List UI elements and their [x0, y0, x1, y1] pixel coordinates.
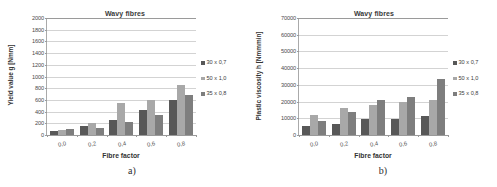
y-tick-label: 400	[35, 109, 44, 115]
bar	[58, 130, 66, 135]
x-axis-title-b: Fibre factor	[298, 152, 448, 159]
bar	[391, 119, 399, 135]
bar	[50, 131, 58, 135]
legend-swatch-icon	[453, 92, 457, 96]
bar	[429, 100, 437, 135]
bar	[377, 100, 385, 135]
legend-swatch-icon	[453, 61, 457, 65]
y-tick-label: 60000	[281, 32, 296, 38]
bar-group	[77, 18, 107, 135]
y-axis-title-b: Plastic viscosity h [Nmmmin]	[255, 16, 262, 136]
x-tick-mark	[136, 135, 137, 137]
x-tick-mark	[47, 135, 48, 137]
x-tick-label: 0,2	[339, 140, 348, 148]
legend-item: 30 x 0,7	[453, 60, 478, 66]
bar	[66, 129, 74, 135]
bar	[169, 100, 177, 135]
bar-group	[166, 18, 196, 135]
x-tick-label: 0,2	[87, 140, 96, 148]
bar-group	[388, 18, 418, 135]
legend-swatch-icon	[453, 77, 457, 81]
bar	[139, 110, 147, 135]
bar	[421, 116, 429, 135]
x-tick-mark	[107, 135, 108, 137]
gridline	[47, 135, 196, 136]
gridline	[299, 135, 448, 136]
bar	[147, 100, 155, 135]
legend-item: 50 x 1,0	[453, 76, 478, 82]
y-tick-label: 50000	[281, 48, 296, 54]
bar-group	[418, 18, 448, 135]
bar	[437, 79, 445, 135]
legend-swatch-icon	[201, 77, 205, 81]
bar	[310, 115, 318, 135]
bar-group	[299, 18, 329, 135]
bar	[117, 103, 125, 135]
legend-item: 35 x 0,8	[201, 91, 226, 97]
bar	[302, 126, 310, 135]
y-tick-label: 10000	[281, 115, 296, 121]
plot-area-a: 0200400600800100012001400160018002000 0,…	[46, 18, 196, 135]
chart-panel-a: Wavy fibres Yield value g [Nmm] 02004006…	[0, 0, 248, 187]
x-tick-label: 0,6	[399, 140, 408, 148]
legend-label: 50 x 1,0	[459, 76, 479, 82]
legend-swatch-icon	[201, 61, 205, 65]
y-tick-label: 200	[35, 120, 44, 126]
bar-group	[136, 18, 166, 135]
legend-item: 35 x 0,8	[453, 91, 478, 97]
figure-two-bar-charts: Wavy fibres Yield value g [Nmm] 02004006…	[0, 0, 497, 187]
y-tick-label: 1000	[32, 74, 44, 80]
chart-panel-b: Wavy fibres Plastic viscosity h [Nmmmin]…	[249, 0, 497, 187]
x-tick-mark	[196, 135, 197, 137]
plot-area-b: 010000200003000040000500006000070000 0,0…	[298, 18, 448, 135]
y-tick-label: 70000	[281, 15, 296, 21]
bar	[185, 95, 193, 135]
bar	[96, 128, 104, 135]
chart-title-b: Wavy fibres	[295, 9, 453, 18]
bar	[125, 122, 133, 135]
y-tick-label: 1400	[32, 50, 44, 56]
x-axis-title-a: Fibre factor	[46, 152, 196, 159]
bar-group	[47, 18, 77, 135]
legend-b: 30 x 0,750 x 1,035 x 0,8	[453, 60, 478, 107]
x-tick-mark	[388, 135, 389, 137]
x-tick-label: 0,0	[57, 140, 66, 148]
bar	[361, 119, 369, 135]
bar	[177, 85, 185, 135]
legend-a: 30 x 0,750 x 1,035 x 0,8	[201, 60, 226, 107]
bar	[399, 102, 407, 135]
y-tick-label: 30000	[281, 82, 296, 88]
x-tick-label: 0,8	[177, 140, 186, 148]
bar	[369, 105, 377, 135]
bar	[332, 124, 340, 135]
bar	[340, 108, 348, 135]
x-tick-label: 0,6	[147, 140, 156, 148]
y-tick-label: 1800	[32, 27, 44, 33]
panel-caption-a: a)	[0, 165, 256, 176]
legend-item: 50 x 1,0	[201, 76, 226, 82]
bar	[155, 115, 163, 135]
y-tick-label: 40000	[281, 65, 296, 71]
bar-group	[329, 18, 359, 135]
y-tick-label: 20000	[281, 99, 296, 105]
bar-group	[359, 18, 389, 135]
x-tick-label: 0,4	[369, 140, 378, 148]
bar	[407, 97, 415, 135]
bar	[80, 126, 88, 135]
legend-label: 30 x 0,7	[459, 60, 479, 66]
y-tick-label: 600	[35, 97, 44, 103]
chart-title-a: Wavy fibres	[46, 9, 204, 18]
bar	[318, 121, 326, 135]
bars-layer-a: 0,00,20,40,60,8	[47, 18, 196, 135]
y-tick-label: 2000	[32, 15, 44, 21]
legend-label: 35 x 0,8	[459, 91, 479, 97]
bar	[88, 123, 96, 135]
y-tick-label: 0	[41, 132, 44, 138]
y-tick-label: 1600	[32, 38, 44, 44]
y-axis-title-a: Yield value g [Nmm]	[7, 19, 14, 131]
x-tick-label: 0,4	[117, 140, 126, 148]
bars-layer-b: 0,00,20,40,60,8	[299, 18, 448, 135]
bar	[109, 120, 117, 135]
x-tick-mark	[448, 135, 449, 137]
x-tick-mark	[359, 135, 360, 137]
